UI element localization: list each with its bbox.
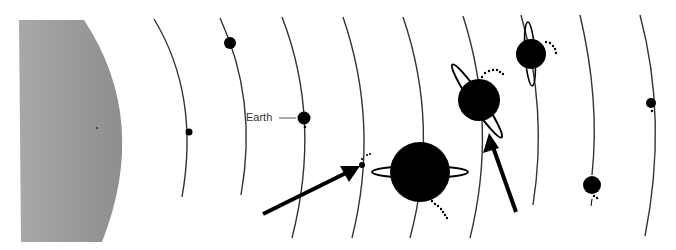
solar-system-diagram [0,0,676,250]
planet-mars [359,162,365,168]
pluto-moon [651,110,653,112]
mars-moons [361,153,371,160]
moon [304,126,307,129]
planet-uranus [516,22,557,87]
orbit-jupiter [403,17,423,238]
neptune-moons [591,195,598,206]
planet-earth [298,112,311,125]
sun [19,20,122,242]
planet-pluto [646,98,656,108]
orbit-neptune [580,15,594,175]
orbit-mars [343,17,364,238]
earth-label: Earth [246,111,272,123]
orbit-saturn [463,16,482,238]
orbit-pluto [640,15,655,236]
planet-jupiter [372,142,468,219]
sun-spot [96,127,98,129]
planet-neptune [583,176,601,194]
planet-venus [224,37,236,49]
planet-mercury [186,129,193,136]
arrow-to-mars [263,166,360,214]
orbit-mercury [154,19,187,197]
arrow-to-saturn [483,133,516,212]
